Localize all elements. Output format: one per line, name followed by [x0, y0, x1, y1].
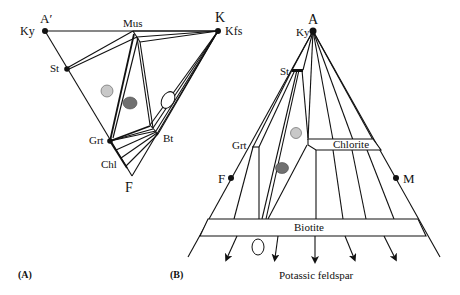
staurolite-bar	[292, 69, 303, 72]
tie-ky-chl-4	[313, 31, 373, 140]
light-grey-circle-marker	[101, 85, 113, 97]
arrow-kfs-5	[384, 236, 395, 258]
tie-mus-bt	[137, 37, 150, 125]
tie-mus-grt-2	[113, 38, 138, 138]
kfeldspar-point	[215, 28, 221, 34]
tie-st-grt-1	[253, 70, 292, 147]
tie-st-bt-2	[266, 70, 299, 219]
tie-mus-kfs-3	[140, 31, 218, 42]
tie-mus-st	[67, 31, 133, 68]
tie-chl-bt-5	[367, 150, 394, 219]
kyanite-point	[310, 28, 317, 35]
apex-label-f: F	[218, 171, 225, 186]
arrow-kfs-2	[275, 236, 278, 258]
tie-grt-bt-1	[234, 147, 253, 219]
tie-ky-chl-3	[313, 31, 353, 140]
caption-a: (A)	[18, 269, 32, 281]
tie-st-chl	[302, 70, 308, 138]
dark-grey-circle-marker	[123, 97, 137, 109]
label-biotite: Biotite	[294, 221, 324, 233]
label-st: St	[50, 62, 59, 74]
tie-mus-grt	[110, 34, 134, 141]
light-grey-circle-marker	[291, 128, 302, 139]
tie-mus-bt-2	[140, 42, 153, 128]
label-kfs: Kfs	[225, 24, 243, 38]
open-ellipse-marker	[252, 239, 264, 255]
tie-ky-chl-2	[313, 31, 333, 140]
label-chl: Chl	[101, 158, 117, 170]
arrow-kfs-4	[345, 236, 354, 258]
tie-mus-kfs-2	[137, 31, 218, 37]
label-grt: Grt	[232, 139, 247, 151]
tie-st-grt-2	[259, 70, 295, 147]
tie-kfs-bt-1	[150, 31, 218, 125]
tie-chl-bt-4	[352, 150, 366, 219]
staurolite-point	[64, 66, 70, 72]
m-point	[393, 175, 399, 181]
apex-label-m: M	[403, 171, 415, 186]
phase-diagram-figure: A′ K F Ky Kfs Mus St Grt Bt Chl (A)	[0, 0, 460, 295]
label-st: St	[280, 65, 289, 77]
apex-label-a-prime: A′	[40, 11, 52, 26]
tie-kfs-bt-2	[153, 31, 218, 128]
label-potassic-feldspar: Potassic feldspar	[279, 269, 354, 281]
arrow-kfs-1	[227, 236, 237, 258]
label-ky: Ky	[296, 26, 310, 38]
garnet-point	[107, 138, 113, 144]
tie-chl-bt-3	[333, 150, 343, 219]
label-bt: Bt	[163, 132, 173, 144]
tie-kfs-bt-4	[158, 31, 218, 134]
apex-label-f: F	[125, 180, 133, 195]
f-point	[228, 175, 234, 181]
label-mus: Mus	[123, 17, 143, 29]
dark-grey-ellipse-marker	[276, 163, 289, 174]
apex-label-a: A	[308, 12, 319, 27]
label-chlorite: Chlorite	[333, 138, 369, 150]
kyanite-point	[42, 28, 48, 34]
open-ellipse-marker	[158, 89, 177, 111]
panel-b-afm-diagram: Chlorite Biotite A Ky St Grt F M Potassi…	[170, 12, 440, 281]
panel-a-akfm-diagram: A′ K F Ky Kfs Mus St Grt Bt Chl (A)	[18, 10, 243, 281]
label-grt: Grt	[89, 134, 104, 146]
caption-b: (B)	[170, 269, 183, 281]
label-ky: Ky	[20, 24, 35, 38]
apex-label-k: K	[215, 10, 225, 25]
